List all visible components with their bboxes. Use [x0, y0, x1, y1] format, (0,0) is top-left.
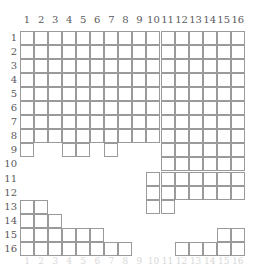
grid-cell-r2-c12[interactable] [175, 45, 189, 59]
grid-cell-r8-c16[interactable] [231, 129, 245, 143]
grid-cell-r6-c2[interactable] [34, 101, 48, 115]
grid-cell-r10-c13[interactable] [189, 157, 203, 171]
grid-cell-r4-c2[interactable] [34, 73, 48, 87]
grid-cell-r7-c4[interactable] [62, 115, 76, 129]
grid-cell-r8-c13[interactable] [189, 129, 203, 143]
grid-cell-r6-c14[interactable] [203, 101, 217, 115]
grid-cell-r8-c10[interactable] [146, 129, 160, 143]
grid-cell-r5-c4[interactable] [62, 87, 76, 101]
grid-cell-r5-c9[interactable] [132, 87, 146, 101]
grid-cell-r3-c3[interactable] [48, 59, 62, 73]
column-header-2[interactable]: 2 [34, 12, 48, 28]
grid-cell-r14-c2[interactable] [34, 214, 48, 228]
grid-cell-r8-c14[interactable] [203, 129, 217, 143]
grid-cell-r15-c1[interactable] [20, 228, 34, 242]
grid-cell-r2-c8[interactable] [118, 45, 132, 59]
grid-cell-r7-c2[interactable] [34, 115, 48, 129]
grid-canvas[interactable] [20, 31, 245, 256]
grid-cell-r15-c3[interactable] [48, 228, 62, 242]
grid-cell-r1-c4[interactable] [62, 31, 76, 45]
row-header-1[interactable]: 1 [0, 31, 17, 45]
column-header-15[interactable]: 15 [217, 12, 231, 28]
grid-cell-r4-c15[interactable] [217, 73, 231, 87]
grid-cell-r1-c1[interactable] [20, 31, 34, 45]
grid-cell-r8-c12[interactable] [175, 129, 189, 143]
grid-cell-r5-c16[interactable] [231, 87, 245, 101]
grid-cell-r9-c12[interactable] [175, 143, 189, 157]
grid-cell-r10-c11[interactable] [161, 157, 175, 171]
grid-cell-r2-c1[interactable] [20, 45, 34, 59]
grid-cell-r16-c1[interactable] [20, 242, 34, 256]
grid-cell-r6-c11[interactable] [161, 101, 175, 115]
grid-cell-r16-c16[interactable] [231, 242, 245, 256]
grid-cell-r7-c7[interactable] [104, 115, 118, 129]
grid-cell-r10-c12[interactable] [175, 157, 189, 171]
row-header-6[interactable]: 6 [0, 101, 17, 115]
grid-cell-r5-c6[interactable] [90, 87, 104, 101]
grid-cell-r7-c3[interactable] [48, 115, 62, 129]
column-header-9[interactable]: 9 [132, 12, 146, 28]
grid-cell-r5-c5[interactable] [76, 87, 90, 101]
grid-cell-r7-c5[interactable] [76, 115, 90, 129]
grid-cell-r6-c3[interactable] [48, 101, 62, 115]
grid-cell-r3-c13[interactable] [189, 59, 203, 73]
grid-cell-r12-c12[interactable] [175, 186, 189, 200]
grid-cell-r11-c11[interactable] [161, 172, 175, 186]
column-header-8[interactable]: 8 [118, 12, 132, 28]
grid-cell-r3-c2[interactable] [34, 59, 48, 73]
grid-cell-r5-c3[interactable] [48, 87, 62, 101]
grid-cell-r16-c7[interactable] [104, 242, 118, 256]
grid-cell-r5-c8[interactable] [118, 87, 132, 101]
grid-cell-r16-c2[interactable] [34, 242, 48, 256]
grid-cell-r1-c2[interactable] [34, 31, 48, 45]
column-header-13[interactable]: 13 [189, 12, 203, 28]
grid-cell-r8-c7[interactable] [104, 129, 118, 143]
grid-cell-r8-c9[interactable] [132, 129, 146, 143]
grid-cell-r14-c1[interactable] [20, 214, 34, 228]
grid-cell-r5-c14[interactable] [203, 87, 217, 101]
grid-cell-r6-c7[interactable] [104, 101, 118, 115]
grid-cell-r15-c2[interactable] [34, 228, 48, 242]
grid-cell-r5-c13[interactable] [189, 87, 203, 101]
grid-cell-r11-c14[interactable] [203, 172, 217, 186]
grid-cell-r13-c2[interactable] [34, 200, 48, 214]
grid-cell-r1-c8[interactable] [118, 31, 132, 45]
grid-cell-r1-c12[interactable] [175, 31, 189, 45]
row-header-12[interactable]: 12 [0, 186, 17, 200]
grid-cell-r11-c15[interactable] [217, 172, 231, 186]
grid-cell-r11-c10[interactable] [146, 172, 160, 186]
grid-cell-r9-c15[interactable] [217, 143, 231, 157]
grid-cell-r2-c10[interactable] [146, 45, 160, 59]
grid-cell-r6-c9[interactable] [132, 101, 146, 115]
grid-cell-r7-c14[interactable] [203, 115, 217, 129]
grid-cell-r8-c2[interactable] [34, 129, 48, 143]
grid-cell-r5-c2[interactable] [34, 87, 48, 101]
column-header-5[interactable]: 5 [76, 12, 90, 28]
grid-cell-r4-c1[interactable] [20, 73, 34, 87]
grid-cell-r6-c15[interactable] [217, 101, 231, 115]
row-header-4[interactable]: 4 [0, 73, 17, 87]
grid-cell-r6-c10[interactable] [146, 101, 160, 115]
grid-cell-r2-c16[interactable] [231, 45, 245, 59]
grid-cell-r4-c14[interactable] [203, 73, 217, 87]
grid-cell-r3-c9[interactable] [132, 59, 146, 73]
grid-cell-r7-c1[interactable] [20, 115, 34, 129]
grid-cell-r8-c15[interactable] [217, 129, 231, 143]
grid-cell-r7-c15[interactable] [217, 115, 231, 129]
grid-cell-r6-c4[interactable] [62, 101, 76, 115]
grid-cell-r12-c15[interactable] [217, 186, 231, 200]
grid-cell-r4-c16[interactable] [231, 73, 245, 87]
grid-cell-r1-c3[interactable] [48, 31, 62, 45]
grid-cell-r8-c5[interactable] [76, 129, 90, 143]
grid-cell-r14-c3[interactable] [48, 214, 62, 228]
grid-cell-r4-c8[interactable] [118, 73, 132, 87]
grid-cell-r4-c5[interactable] [76, 73, 90, 87]
grid-cell-r7-c6[interactable] [90, 115, 104, 129]
grid-cell-r1-c15[interactable] [217, 31, 231, 45]
grid-cell-r6-c6[interactable] [90, 101, 104, 115]
row-header-7[interactable]: 7 [0, 115, 17, 129]
grid-cell-r16-c5[interactable] [76, 242, 90, 256]
grid-cell-r2-c7[interactable] [104, 45, 118, 59]
grid-cell-r15-c15[interactable] [217, 228, 231, 242]
grid-cell-r7-c11[interactable] [161, 115, 175, 129]
